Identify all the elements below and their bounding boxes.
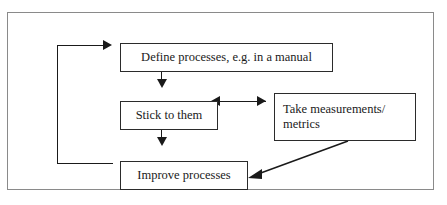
process-box-improve-processes[interactable]: Improve processes (120, 161, 248, 190)
process-box-stick-to-them[interactable]: Stick to them (120, 101, 218, 130)
process-box-define-processes[interactable]: Define processes, e.g. in a manual (120, 43, 333, 72)
connector-stick-to-improve-arrowhead (157, 137, 167, 146)
connector-improve-to-define-bottom-segment (57, 163, 113, 164)
caption-artifact (70, 195, 400, 203)
process-box-take-measurements[interactable]: Take measurements/ metrics (274, 93, 416, 141)
connector-measure-to-improve-arrowhead (248, 169, 262, 179)
connector-improve-to-define-arrowhead (103, 40, 112, 50)
connector-improve-to-define-left-segment (57, 45, 58, 164)
process-box-take-measurements-label: Take measurements/ metrics (283, 102, 385, 132)
connector-stick-measure-arrowhead-right (257, 96, 266, 106)
process-box-stick-to-them-label: Stick to them (136, 108, 203, 123)
process-box-define-processes-label: Define processes, e.g. in a manual (141, 50, 312, 65)
connector-define-to-stick-arrowhead (157, 79, 167, 88)
connector-measure-to-improve (238, 133, 368, 188)
process-box-improve-processes-label: Improve processes (137, 168, 230, 183)
connector-measure-to-improve-line (258, 141, 348, 174)
connector-improve-to-define-top-segment (57, 45, 104, 46)
diagram-frame: Define processes, e.g. in a manual Stick… (7, 12, 434, 190)
diagram-screenshot: Define processes, e.g. in a manual Stick… (0, 0, 447, 205)
